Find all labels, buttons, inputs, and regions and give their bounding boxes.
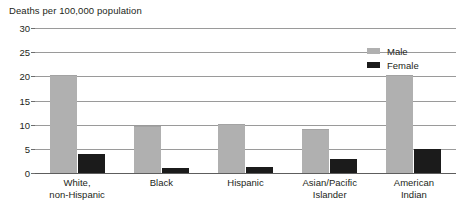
bar-female xyxy=(246,167,273,173)
bar-group xyxy=(302,28,357,173)
x-axis-label-line2: Indian xyxy=(394,189,434,201)
bar-male xyxy=(386,75,413,173)
bar-group xyxy=(50,28,105,173)
legend-label-male: Male xyxy=(387,46,408,57)
chart-legend: Male Female xyxy=(367,44,419,72)
x-axis-label-line1: Asian/Pacific xyxy=(302,177,356,188)
y-axis-tick-label: 15 xyxy=(19,95,30,106)
x-axis-label-line1: White, xyxy=(64,177,91,188)
y-axis-tick-label: 5 xyxy=(25,143,30,154)
y-axis-tick-mark xyxy=(31,76,35,77)
x-axis-category-label: Black xyxy=(150,177,173,189)
bar-female xyxy=(78,154,105,173)
bar-chart: Deaths per 100,000 population 0510152025… xyxy=(0,0,463,211)
bar-female xyxy=(330,159,357,174)
bar-male xyxy=(134,126,161,173)
x-axis-category-label: White,non-Hispanic xyxy=(49,177,104,200)
x-axis-label-line1: American xyxy=(394,177,434,188)
legend-label-female: Female xyxy=(387,60,419,71)
bar-group xyxy=(134,28,189,173)
y-axis-tick-mark xyxy=(31,52,35,53)
x-axis-label-line1: Black xyxy=(150,177,173,188)
x-axis-label-line2: Islander xyxy=(302,189,356,201)
bar-female xyxy=(162,168,189,173)
y-axis-tick-label: 20 xyxy=(19,71,30,82)
bar-group xyxy=(218,28,273,173)
x-axis-category-label: Asian/PacificIslander xyxy=(302,177,356,200)
y-axis-tick-mark xyxy=(31,149,35,150)
legend-item-female: Female xyxy=(367,58,419,72)
bar-male xyxy=(218,124,245,173)
y-axis-tick-mark xyxy=(31,173,35,174)
legend-item-male: Male xyxy=(367,44,419,58)
y-axis-tick-label: 25 xyxy=(19,47,30,58)
chart-title: Deaths per 100,000 population xyxy=(9,5,142,16)
x-axis-baseline xyxy=(35,173,456,174)
bar-male xyxy=(50,75,77,173)
bar-male xyxy=(302,129,329,174)
legend-swatch-male-icon xyxy=(367,48,380,54)
y-axis-tick-label: 0 xyxy=(25,168,30,179)
y-axis-tick-label: 30 xyxy=(19,23,30,34)
x-axis-label-line2: non-Hispanic xyxy=(49,189,104,201)
y-axis-tick-label: 10 xyxy=(19,119,30,130)
x-axis-category-label: AmericanIndian xyxy=(394,177,434,200)
x-axis-label-line1: Hispanic xyxy=(227,177,263,188)
bar-female xyxy=(414,149,441,173)
y-axis-tick-mark xyxy=(31,101,35,102)
y-axis-tick-mark xyxy=(31,28,35,29)
y-axis-tick-mark xyxy=(31,125,35,126)
legend-swatch-female-icon xyxy=(367,62,380,68)
x-axis-category-label: Hispanic xyxy=(227,177,263,189)
